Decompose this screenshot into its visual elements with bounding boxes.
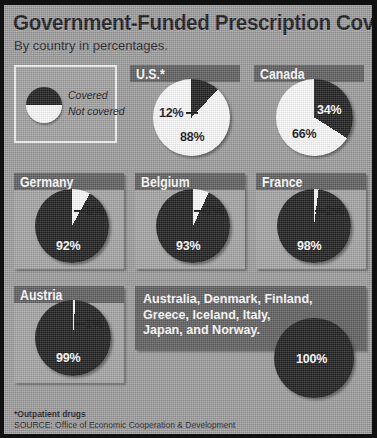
panel-germany-label: Germany — [20, 174, 73, 190]
pie-france-value-not-covered: 2% — [326, 204, 344, 218]
pie-belgium-value-not-covered: 7% — [206, 204, 224, 218]
pie-canada — [276, 79, 353, 156]
pie-austria-value-covered: 99% — [56, 351, 80, 365]
pie-us-value-not-covered: 88% — [180, 130, 204, 144]
panel-belgium-label: Belgium — [141, 174, 190, 190]
legend-label-not-covered: Not covered — [68, 105, 125, 117]
panel-canada-label: Canada — [260, 66, 305, 82]
legend-swatch-icon — [26, 87, 62, 123]
page-title: Government-Funded Prescription Coverage — [13, 11, 359, 36]
pie-us-leader-line — [186, 112, 198, 114]
source-line: SOURCE: Office of Economic Cooperation &… — [14, 420, 235, 430]
legend: Covered Not covered — [14, 65, 117, 143]
legend-label-covered: Covered — [68, 89, 108, 101]
pie-france-value-covered: 98% — [297, 239, 321, 253]
pie-germany-value-not-covered: 8% — [86, 204, 104, 218]
pie-austria-value-not-covered: 1% — [85, 317, 103, 331]
panel-france-labelbar: France — [256, 173, 366, 190]
pie-group-value-covered: 100% — [296, 352, 327, 366]
infographic-stage: Government-Funded Prescription Coverage … — [4, 5, 372, 434]
pie-canada-value-not-covered: 66% — [292, 127, 316, 141]
page-subtitle: By country in percentages. — [14, 38, 168, 53]
panel-belgium-labelbar: Belgium — [135, 173, 245, 190]
panel-germany-labelbar: Germany — [14, 173, 124, 190]
pie-france-leader-line — [315, 210, 326, 212]
pie-germany-value-covered: 92% — [56, 239, 80, 253]
infographic-root: Government-Funded Prescription Coverage … — [0, 0, 377, 438]
group-countries-line-1: Australia, Denmark, Finland, — [143, 291, 313, 307]
pie-germany-leader-line — [74, 210, 86, 212]
footnote-outpatient: *Outpatient drugs — [14, 409, 86, 419]
pie-us-value-covered: 12% — [159, 106, 183, 120]
pie-canada-value-covered: 34% — [317, 103, 341, 117]
pie-belgium-leader-line — [194, 210, 206, 212]
pie-belgium-value-covered: 93% — [176, 239, 200, 253]
panel-france-label: France — [262, 174, 302, 190]
pie-austria-leader-line — [74, 323, 85, 325]
panel-us-label: U.S.* — [136, 66, 165, 82]
group-countries-line-2: Greece, Iceland, Italy, — [143, 307, 313, 323]
panel-austria-label: Austria — [20, 287, 62, 303]
